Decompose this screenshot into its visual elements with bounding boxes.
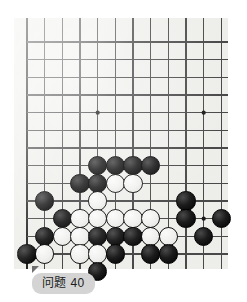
black-stone (35, 227, 54, 246)
white-stone (70, 227, 89, 246)
caption: 问题 40 (8, 270, 128, 298)
black-stone (106, 227, 125, 246)
caption-arrow-icon (32, 266, 39, 273)
black-stone (106, 244, 125, 263)
black-stone (70, 174, 89, 193)
star-point (202, 217, 206, 221)
go-problem-diagram: 问题 40 (0, 0, 247, 302)
white-stone (53, 227, 72, 246)
black-stone (159, 244, 178, 263)
black-stone (106, 156, 125, 175)
black-stone (123, 156, 142, 175)
white-stone (70, 244, 89, 263)
star-point (202, 111, 206, 115)
black-stone (176, 209, 195, 228)
white-stone (123, 209, 142, 228)
black-stone (53, 209, 72, 228)
white-stone (106, 174, 125, 193)
caption-label: 问题 40 (32, 273, 95, 294)
black-stone (176, 191, 195, 210)
black-stone (123, 227, 142, 246)
black-stone (141, 244, 160, 263)
white-stone (70, 209, 89, 228)
white-stone (88, 191, 107, 210)
white-stone (35, 244, 54, 263)
star-point (96, 111, 100, 115)
white-stone (159, 227, 178, 246)
white-stone (123, 174, 142, 193)
black-stone (17, 244, 36, 263)
black-stone (35, 191, 54, 210)
white-stone (88, 244, 107, 263)
black-stone (88, 174, 107, 193)
go-board-panel (14, 18, 228, 269)
black-stone (212, 209, 231, 228)
